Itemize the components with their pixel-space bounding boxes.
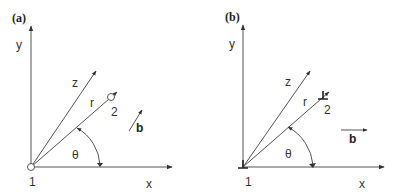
theta-label: θ bbox=[72, 148, 79, 162]
point-2-marker-icon bbox=[108, 94, 115, 101]
point-2-marker-icon bbox=[318, 91, 328, 99]
z-axis-arrow bbox=[243, 71, 310, 167]
z-label: z bbox=[285, 75, 291, 89]
diagram-canvas: (a) y x z r 2 1 θ b (b) y x bbox=[0, 0, 398, 195]
y-axis-label: y bbox=[16, 38, 22, 52]
panel-b-title: (b) bbox=[225, 10, 240, 24]
point-2-label: 2 bbox=[324, 103, 331, 117]
x-axis-label: x bbox=[359, 177, 365, 191]
y-axis-label: y bbox=[229, 37, 235, 51]
r-label: r bbox=[90, 96, 94, 110]
panel-b: (b) y x z r 2 1 θ b bbox=[225, 10, 384, 191]
x-axis-label: x bbox=[146, 177, 152, 191]
theta-arc-arrow bbox=[77, 128, 100, 165]
panel-a-title: (a) bbox=[12, 11, 26, 25]
theta-label: θ bbox=[285, 147, 292, 161]
theta-arc-start-arrowhead-icon bbox=[97, 163, 103, 167]
b-vector-label: b bbox=[349, 132, 356, 146]
point-1-marker-icon bbox=[28, 164, 35, 171]
b-vector-label: b bbox=[136, 121, 143, 135]
z-label: z bbox=[72, 76, 78, 90]
point-2-label: 2 bbox=[111, 105, 118, 119]
point-1-label: 1 bbox=[245, 175, 252, 189]
theta-arc-arrow bbox=[288, 127, 313, 165]
r-label: r bbox=[303, 95, 307, 109]
panel-a: (a) y x z r 2 1 θ b bbox=[12, 11, 172, 191]
point-1-label: 1 bbox=[29, 175, 36, 189]
